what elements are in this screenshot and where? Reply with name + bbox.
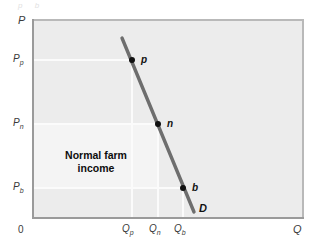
region-label-line1: Normal farm [65,149,127,161]
y-tick-pn-sub: n [20,123,24,130]
guide-line-pb [34,187,183,189]
x-tick-qp-base: Q [122,223,130,234]
point-label-p: p [141,55,147,65]
y-tick-pb-sub: b [20,187,24,194]
point-label-b: b [192,183,198,193]
x-axis-title: Q [293,224,302,235]
y-tick-pb: Pb [13,182,24,194]
x-tick-qp: Qp [122,224,134,236]
x-tick-qn-base: Q [149,223,157,234]
scan-artifact: p b [18,1,44,10]
guide-line-qn [157,123,159,217]
y-tick-pp-sub: p [20,59,24,66]
y-tick-pb-base: P [13,181,20,192]
y-tick-pp-base: P [13,53,20,64]
data-point-n [155,121,161,127]
x-tick-qp-sub: p [130,229,134,236]
data-point-p [129,57,135,63]
demand-curve-label: D [199,203,207,214]
y-tick-pp: Pp [13,54,24,66]
origin-label: 0 [18,225,24,235]
panel-border-top [32,19,304,21]
region-label-line2: income [78,162,115,174]
panel-border-right [302,19,304,219]
farm-income-demand-figure: p b p n b D Normal farm income P Pp Pn P… [0,0,316,245]
point-label-n: n [167,119,173,129]
normal-farm-income-label: Normal farm income [38,149,154,175]
guide-line-qb [182,187,184,217]
x-tick-qb-sub: b [182,229,186,236]
x-tick-qn: Qn [149,224,161,236]
x-tick-qb: Qb [174,224,186,236]
guide-line-pp [34,59,132,61]
x-tick-qn-sub: n [157,229,161,236]
data-point-b [180,185,186,191]
guide-line-pn [34,123,158,125]
y-axis [32,19,34,219]
y-tick-pn-base: P [13,117,20,128]
guide-line-qp [131,59,133,217]
y-tick-pn: Pn [13,118,24,130]
y-axis-title: P [18,15,25,26]
x-tick-qb-base: Q [174,223,182,234]
x-axis [32,217,304,219]
